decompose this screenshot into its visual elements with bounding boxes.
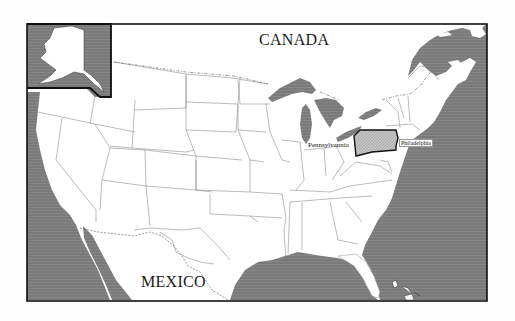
label-pennsylvania: Pennsylvannia <box>308 141 349 149</box>
us-map <box>0 0 515 321</box>
label-philadelphia: Philadelphia <box>399 139 433 147</box>
alaska-inset <box>27 24 111 97</box>
label-mexico: MEXICO <box>141 273 206 291</box>
label-canada: CANADA <box>259 31 329 49</box>
